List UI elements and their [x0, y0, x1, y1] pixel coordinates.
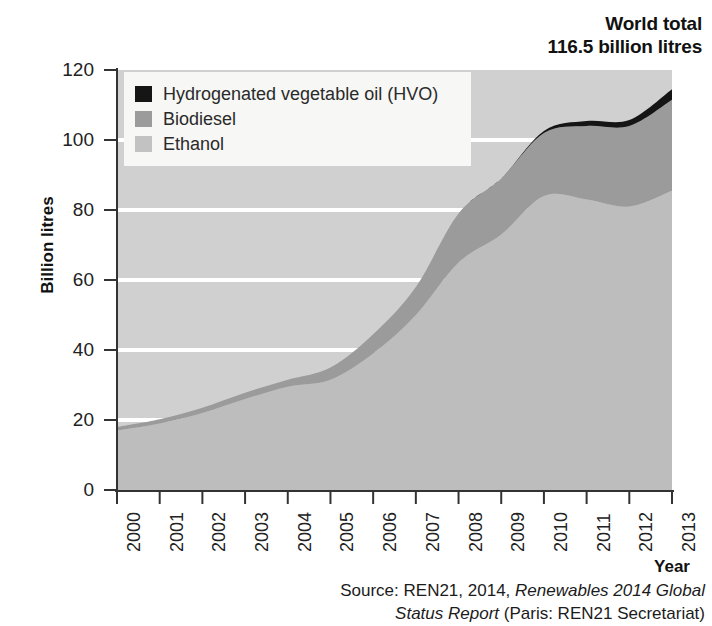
legend-swatch-hvo-icon [135, 86, 152, 102]
source-suffix: (Paris: REN21 Secretariat) [499, 604, 705, 623]
legend-item-hvo: Hydrogenated vegetable oil (HVO) [135, 81, 457, 106]
x-axis-title: Year [654, 557, 690, 577]
legend-item-ethanol: Ethanol [135, 131, 457, 156]
y-axis-ticks [104, 70, 117, 490]
legend-item-biodiesel: Biodiesel [135, 106, 457, 131]
x-axis-ticks [117, 491, 672, 504]
legend-label-hvo: Hydrogenated vegetable oil (HVO) [163, 85, 438, 103]
legend-label-ethanol: Ethanol [163, 135, 224, 153]
chart-legend: Hydrogenated vegetable oil (HVO) Biodies… [124, 72, 471, 166]
source-line-2: Status Report (Paris: REN21 Secretariat) [0, 602, 705, 625]
source-prefix: Source: REN21, 2014, [340, 581, 515, 600]
chart-figure: World total 116.5 billion litres Billion… [0, 0, 712, 626]
legend-label-biodiesel: Biodiesel [163, 110, 236, 128]
source-line-1: Source: REN21, 2014, Renewables 2014 Glo… [0, 579, 705, 602]
source-italic-2: Status Report [395, 604, 499, 623]
legend-swatch-biodiesel-icon [135, 111, 152, 127]
source-italic-1: Renewables 2014 Global [515, 581, 705, 600]
source-caption: Source: REN21, 2014, Renewables 2014 Glo… [0, 579, 705, 625]
legend-swatch-ethanol-icon [135, 136, 152, 152]
